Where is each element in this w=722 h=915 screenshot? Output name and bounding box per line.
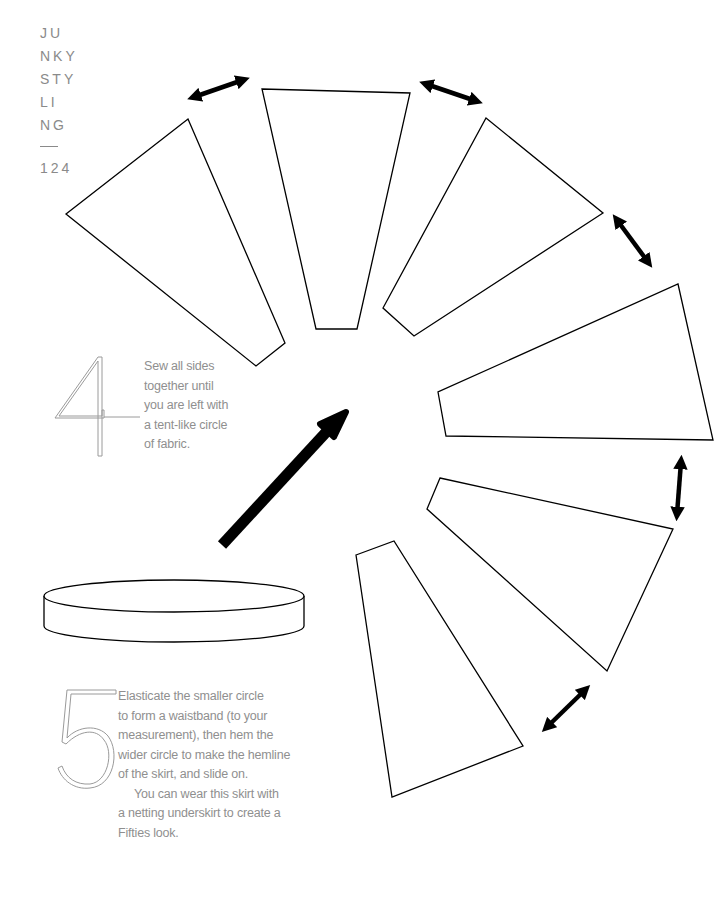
step-5-numeral	[58, 690, 116, 788]
step-5-line: of the skirt, and slide on.	[118, 765, 308, 785]
double-arrow-icon	[677, 462, 681, 514]
step-5-note-line: Fifties look.	[118, 824, 308, 844]
skirt-panel-1	[66, 119, 285, 366]
step-4-line: a tent-like circle	[144, 416, 274, 436]
double-arrow-icon	[547, 690, 585, 727]
double-arrow-icon	[194, 80, 243, 97]
skirt-panel-2	[262, 89, 410, 329]
skirt-diagram	[0, 0, 722, 915]
step-4-text: Sew all sides together until you are lef…	[144, 357, 274, 455]
double-arrow-icon	[426, 84, 476, 101]
skirt-panel-4	[438, 284, 713, 440]
skirt-panel-5	[427, 478, 673, 671]
double-arrow-icon	[617, 220, 648, 262]
step-5-text: Elasticate the smaller circle to form a …	[118, 687, 308, 843]
skirt-panel-3	[383, 118, 603, 336]
step-4-line: together until	[144, 377, 274, 397]
step-5-note-line: a netting underskirt to create a	[118, 804, 308, 824]
waistband-cylinder-icon	[44, 580, 304, 642]
step-5-line: wider circle to make the hemline	[118, 746, 308, 766]
step-4-line: you are left with	[144, 396, 274, 416]
step-5-line: Elasticate the smaller circle	[118, 687, 308, 707]
step-5-line: measurement), then hem the	[118, 726, 308, 746]
step-5-line: to form a waistband (to your	[118, 707, 308, 727]
step-4-line: Sew all sides	[144, 357, 274, 377]
skirt-panel-6	[356, 541, 523, 797]
step-4-numeral	[55, 357, 140, 456]
step-4-line: of fabric.	[144, 435, 274, 455]
step-5-note-line: You can wear this skirt with	[118, 785, 308, 805]
